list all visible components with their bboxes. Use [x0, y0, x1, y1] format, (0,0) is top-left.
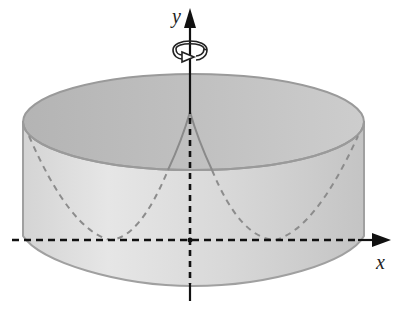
y-axis-arrowhead [184, 8, 196, 28]
figure-canvas [0, 0, 397, 312]
x-axis-arrowhead [372, 233, 391, 247]
y-axis-label: y [172, 6, 181, 26]
x-axis-label: x [376, 252, 385, 272]
origin-point [188, 238, 193, 243]
solid-of-revolution-figure: y x [0, 0, 397, 312]
